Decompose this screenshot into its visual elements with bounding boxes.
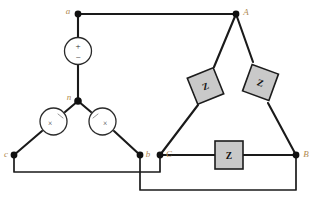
node-dot-c [11, 152, 18, 159]
node-label-c: c [4, 149, 8, 159]
node-label-B: B [303, 149, 309, 159]
wire-A-to-impedance-CA [214, 14, 236, 67]
impedance-CA: Z [187, 68, 223, 104]
voltage-source-a-plus: + [75, 41, 80, 51]
voltage-source-c-symbol [40, 108, 67, 135]
impedance-CB-label: Z [226, 151, 232, 161]
node-dot-C [157, 152, 164, 159]
voltage-source-b-mark: × [103, 119, 107, 128]
node-dot-A [233, 11, 240, 18]
wire-source-b-to-node-b [114, 131, 140, 155]
node-dot-b [137, 152, 144, 159]
wire-A-to-impedance-AB [236, 14, 253, 62]
impedance-AB: Z [243, 65, 279, 101]
wire-impedance-CA-to-C [160, 105, 198, 155]
node-dot-B [293, 152, 300, 159]
node-dot-a [75, 11, 82, 18]
node-label-C: C [166, 149, 173, 159]
node-dot-n [74, 97, 82, 105]
wire-impedance-AB-to-B [268, 103, 296, 155]
circuit-diagram: + − × × [0, 0, 332, 202]
delta-leg-CB: Z [160, 141, 296, 169]
node-label-a: a [66, 6, 71, 16]
circuit-svg: + − × × [0, 0, 332, 202]
voltage-source-a-minus: − [75, 52, 80, 62]
source-branch-a: + − [65, 14, 92, 101]
source-branch-c: × [14, 101, 78, 155]
voltage-source-c-mark: × [48, 119, 52, 128]
delta-leg-CA: Z [160, 14, 236, 155]
delta-leg-AB: Z [236, 14, 296, 155]
wire-source-c-to-node-c [14, 131, 42, 155]
node-label-n: n [67, 92, 72, 102]
source-branch-b: × [78, 101, 140, 155]
node-label-A: A [242, 7, 249, 17]
node-label-b: b [146, 149, 151, 159]
